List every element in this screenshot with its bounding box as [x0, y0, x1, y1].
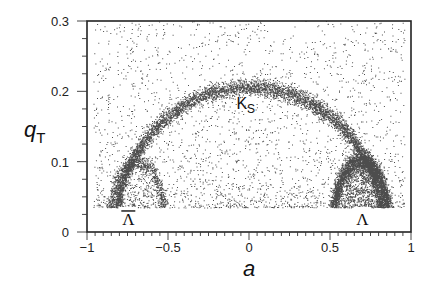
y-axis-title: qT: [24, 117, 45, 146]
y-axis-title-sub: T: [36, 129, 45, 146]
lambda-label: Λ: [356, 210, 369, 229]
y-axis-title-main: q: [24, 117, 37, 142]
y-tick-label: 0: [62, 225, 69, 240]
armenteros-plot: −1−0.500.51 00.10.20.3 a qT KSΛΛ: [0, 0, 434, 289]
x-tick-label: 1: [407, 240, 414, 255]
x-tick-label: −1: [80, 240, 95, 255]
y-tick-label: 0.1: [51, 155, 69, 170]
y-tick-label: 0.2: [51, 84, 69, 99]
x-tick-labels: −1−0.500.51: [80, 240, 415, 255]
x-tick-label: 0.5: [321, 240, 339, 255]
y-tick-label: 0.3: [51, 14, 69, 29]
antilambda-label: Λ: [122, 210, 135, 229]
x-tick-label: −0.5: [155, 240, 181, 255]
x-tick-label: 0: [245, 240, 252, 255]
y-tick-labels: 00.10.20.3: [51, 14, 69, 240]
x-axis-title: a: [243, 256, 255, 281]
